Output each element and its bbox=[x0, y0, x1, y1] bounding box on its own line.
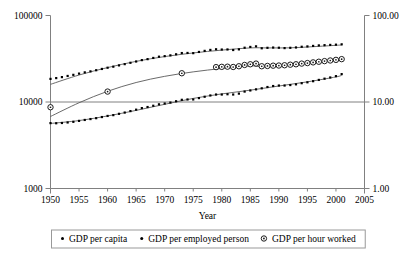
marker-dot bbox=[278, 47, 280, 49]
marker-dot bbox=[186, 98, 188, 100]
x-tick-label: 1965 bbox=[127, 195, 146, 205]
marker-dot bbox=[95, 117, 97, 119]
marker-dot bbox=[135, 60, 137, 62]
marker-circle-center bbox=[244, 64, 246, 66]
chart-figure: 1950195519601965197019751980198519901995… bbox=[0, 0, 415, 264]
marker-dot bbox=[164, 55, 166, 57]
marker-dot bbox=[101, 68, 103, 70]
marker-dot bbox=[318, 79, 320, 81]
marker-dot bbox=[283, 47, 285, 49]
marker-dot bbox=[266, 47, 268, 49]
x-tick-label: 1985 bbox=[241, 195, 260, 205]
marker-dot bbox=[106, 67, 108, 69]
marker-dot bbox=[221, 93, 223, 95]
x-tick-label: 1990 bbox=[269, 195, 288, 205]
marker-dot bbox=[141, 107, 143, 109]
marker-dot bbox=[84, 71, 86, 73]
marker-dot bbox=[204, 96, 206, 98]
marker-dot bbox=[341, 43, 343, 45]
marker-dot bbox=[289, 84, 291, 86]
x-tick-label: 1975 bbox=[184, 195, 203, 205]
chart-background bbox=[0, 0, 415, 264]
marker-dot bbox=[329, 44, 331, 46]
marker-dot bbox=[169, 54, 171, 56]
marker-dot bbox=[192, 52, 194, 54]
marker-dot bbox=[192, 98, 194, 100]
marker-dot bbox=[341, 73, 343, 75]
legend-label: GDP per employed person bbox=[148, 234, 249, 244]
marker-dot bbox=[175, 53, 177, 55]
legend-label: GDP per capita bbox=[69, 234, 128, 244]
marker-dot bbox=[244, 90, 246, 92]
marker-dot bbox=[118, 64, 120, 66]
x-tick-label: 1960 bbox=[98, 195, 117, 205]
chart-canvas: 1950195519601965197019751980198519901995… bbox=[0, 0, 415, 264]
y-tick-label-left: 1000 bbox=[24, 184, 43, 194]
marker-dot bbox=[255, 88, 257, 90]
marker-circle-center bbox=[301, 63, 303, 65]
chart-legend: GDP per capitaGDP per employed personGDP… bbox=[52, 230, 366, 248]
marker-circle-center bbox=[249, 63, 251, 65]
marker-circle-center bbox=[261, 65, 263, 67]
marker-dot bbox=[198, 97, 200, 99]
marker-dot bbox=[61, 122, 63, 124]
marker-dot bbox=[49, 78, 51, 80]
marker-dot bbox=[244, 47, 246, 49]
marker-dot bbox=[89, 118, 91, 120]
marker-circle-center bbox=[318, 61, 320, 63]
marker-dot bbox=[301, 46, 303, 48]
marker-dot bbox=[261, 47, 263, 49]
marker-dot bbox=[221, 48, 223, 50]
marker-dot bbox=[118, 113, 120, 115]
marker-dot bbox=[323, 78, 325, 80]
y-tick-label-left: 10000 bbox=[19, 97, 43, 107]
marker-dot bbox=[67, 121, 69, 123]
marker-dot bbox=[152, 105, 154, 107]
marker-dot bbox=[204, 50, 206, 52]
legend-marker-dot bbox=[140, 237, 143, 240]
marker-circle-center bbox=[324, 60, 326, 62]
x-tick-label: 1970 bbox=[155, 195, 174, 205]
y-tick-label-right: 1.00 bbox=[373, 184, 390, 194]
marker-dot bbox=[323, 44, 325, 46]
marker-dot bbox=[72, 74, 74, 76]
marker-dot bbox=[164, 102, 166, 104]
marker-circle-center bbox=[295, 63, 297, 65]
marker-dot bbox=[101, 116, 103, 118]
y-tick-label-right: 100.00 bbox=[373, 11, 399, 21]
marker-circle-center bbox=[272, 65, 274, 67]
marker-dot bbox=[72, 121, 74, 123]
marker-circle-center bbox=[181, 72, 183, 74]
marker-circle-center bbox=[335, 59, 337, 61]
marker-circle-center bbox=[50, 106, 52, 108]
marker-dot bbox=[261, 87, 263, 89]
marker-dot bbox=[135, 109, 137, 111]
marker-dot bbox=[78, 120, 80, 122]
marker-dot bbox=[61, 76, 63, 78]
marker-dot bbox=[209, 94, 211, 96]
marker-dot bbox=[169, 101, 171, 103]
marker-dot bbox=[55, 122, 57, 124]
marker-dot bbox=[249, 89, 251, 91]
marker-circle-center bbox=[255, 63, 257, 65]
marker-dot bbox=[181, 99, 183, 101]
marker-dot bbox=[289, 47, 291, 49]
marker-dot bbox=[106, 115, 108, 117]
marker-dot bbox=[226, 93, 228, 95]
marker-circle-center bbox=[232, 66, 234, 68]
marker-dot bbox=[335, 75, 337, 77]
marker-dot bbox=[124, 63, 126, 65]
marker-dot bbox=[295, 83, 297, 85]
marker-dot bbox=[335, 44, 337, 46]
marker-dot bbox=[272, 85, 274, 87]
marker-dot bbox=[283, 84, 285, 86]
marker-dot bbox=[175, 100, 177, 102]
marker-dot bbox=[129, 62, 131, 64]
marker-dot bbox=[198, 51, 200, 53]
marker-dot bbox=[226, 48, 228, 50]
marker-dot bbox=[186, 52, 188, 54]
marker-dot bbox=[158, 56, 160, 58]
marker-circle-center bbox=[267, 65, 269, 67]
marker-dot bbox=[312, 80, 314, 82]
x-tick-label: 1980 bbox=[212, 195, 231, 205]
